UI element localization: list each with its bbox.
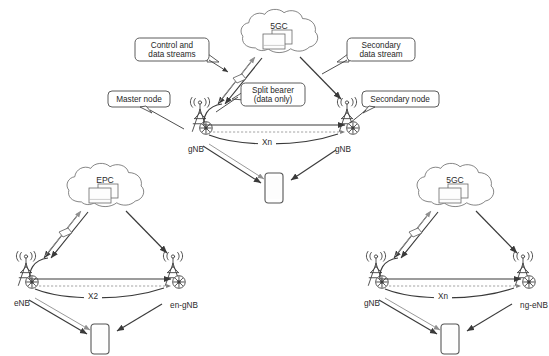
ue-device [441,324,459,354]
core-label: 5GC [446,175,464,185]
core-label: EPC [96,175,114,185]
node-label: gNB [188,145,204,154]
callout-line: data stream [359,50,402,59]
node-label: gNB [364,299,380,308]
node-label: ng-eNB [520,301,548,310]
callout-line: Master node [116,95,162,104]
ue-device [265,173,283,203]
interface-label: X2 [88,292,98,301]
node-label: en-gNB [170,301,198,310]
callout-line: (data only) [254,95,293,104]
node-label: gNB [335,145,351,154]
interface-label: Xn [262,138,272,147]
callout-line: data streams [148,50,195,59]
ue-device [91,324,109,354]
interface-label: Xn [438,292,448,301]
callout-line: Secondary [361,41,401,50]
diagram-canvas: 5GC gNB gNB [0,0,549,356]
callout-line: Secondary node [370,95,430,104]
node-label: eNB [14,299,30,308]
core-label: 5GC [270,21,288,31]
callout-line: Split bearer [252,86,294,95]
callout-line: Control and [151,41,194,50]
